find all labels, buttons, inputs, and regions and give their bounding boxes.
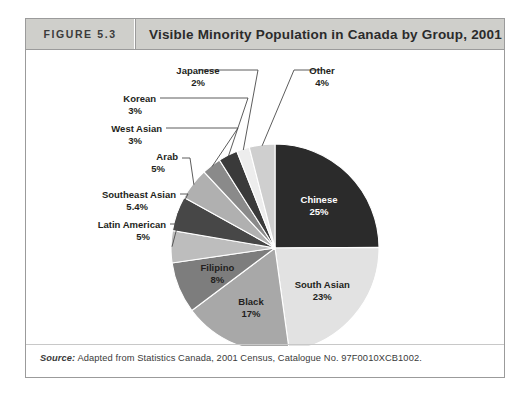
source-citation: Adapted from Statistics Canada, 2001 Cen… — [75, 353, 422, 363]
pie-leader-line — [262, 70, 322, 146]
pie-slice-label: Black — [238, 296, 264, 307]
figure-container: FIGURE 5.3 Visible Minority Population i… — [25, 18, 505, 378]
pie-slice-label: South Asian — [295, 279, 350, 290]
pie-callout-label: Japanese — [176, 65, 219, 76]
pie-callout-value: 2% — [191, 77, 205, 88]
source-note: Source: Adapted from Statistics Canada, … — [40, 353, 422, 363]
pie-leader-line — [160, 98, 248, 156]
source-region: Source: Adapted from Statistics Canada, … — [26, 344, 504, 377]
pie-chart: Chinese25%South Asian23%Black17%Filipino… — [26, 50, 504, 346]
pie-callout-label: Latin American — [98, 219, 166, 230]
pie-slice-label: Chinese — [301, 194, 338, 205]
pie-callout-value: 3% — [128, 135, 142, 146]
pie-callout-value: 4% — [315, 77, 329, 88]
source-prefix: Source: — [40, 353, 75, 363]
pie-slice-value: 25% — [309, 206, 329, 217]
pie-slice-value: 17% — [241, 308, 261, 319]
figure-title-cell: Visible Minority Population in Canada by… — [135, 19, 504, 49]
pie-slice-value: 8% — [211, 274, 225, 285]
pie-callout-label: Korean — [123, 93, 156, 104]
pie-callout-value: 5% — [136, 231, 150, 242]
pie-slice-group — [171, 144, 379, 346]
pie-callout-label: Arab — [156, 151, 178, 162]
pie-slice-label: Filipino — [201, 262, 235, 273]
figure-number-cell: FIGURE 5.3 — [26, 19, 135, 49]
figure-number-label: FIGURE 5.3 — [43, 28, 116, 40]
pie-slice-value: 23% — [313, 291, 333, 302]
chart-body: Chinese25%South Asian23%Black17%Filipino… — [26, 50, 504, 346]
pie-callout-label: Southeast Asian — [102, 189, 176, 200]
pie-leader-line — [182, 158, 194, 185]
pie-callout-label: West Asian — [111, 123, 162, 134]
pie-callout-value: 5% — [151, 163, 165, 174]
figure-title: Visible Minority Population in Canada by… — [149, 27, 502, 42]
figure-header: FIGURE 5.3 Visible Minority Population i… — [26, 19, 504, 50]
pie-callout-value: 3% — [128, 105, 142, 116]
pie-callout-label: Other — [309, 65, 335, 76]
pie-callout-value: 5.4% — [126, 201, 148, 212]
pie-leader-line — [198, 70, 258, 150]
